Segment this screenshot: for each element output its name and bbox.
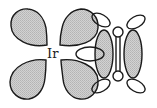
metal-label: Ir	[47, 46, 59, 61]
d-lobe-lower-right	[61, 60, 98, 99]
d-lobe-upper-left	[11, 9, 47, 46]
sub-lobe-lower-right	[125, 76, 148, 96]
d-lobe-lower-left	[10, 60, 46, 99]
carbon-atoms	[113, 27, 123, 81]
sub-lobe-upper-right	[125, 12, 148, 32]
orbital-diagram: Ir	[0, 0, 157, 108]
carbon-atom-bottom	[113, 71, 123, 81]
carbon-atom-top	[113, 27, 123, 37]
pi-lobe-right	[124, 30, 142, 78]
